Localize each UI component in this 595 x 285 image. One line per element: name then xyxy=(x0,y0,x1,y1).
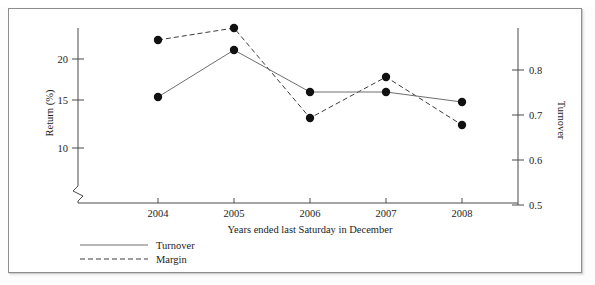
chart-canvas: 20 15 10 Return (%) 0.8 0.7 0.6 0.5 Turn… xyxy=(0,0,595,285)
chart-legend: Turnover Margin xyxy=(80,240,195,265)
legend-label-turnover: Turnover xyxy=(156,240,195,251)
x-axis-title: Years ended last Saturday in December xyxy=(228,224,393,235)
left-tick-label-20: 20 xyxy=(58,54,69,65)
point-turnover-2008 xyxy=(458,98,466,106)
left-tick-label-10: 10 xyxy=(58,143,69,154)
x-tick-label-2008: 2008 xyxy=(452,208,473,219)
series-margin-line xyxy=(158,28,462,125)
series-turnover xyxy=(154,46,466,106)
chart-page: 20 15 10 Return (%) 0.8 0.7 0.6 0.5 Turn… xyxy=(0,0,595,285)
left-axis-line xyxy=(73,28,83,203)
point-turnover-2007 xyxy=(382,88,390,96)
right-axis-title: Turnover xyxy=(556,101,567,140)
x-tick-label-2004: 2004 xyxy=(148,208,170,219)
point-turnover-2006 xyxy=(306,88,314,96)
legend-label-margin: Margin xyxy=(156,254,187,265)
x-axis: 2004 2005 2006 2007 2008 Years ended las… xyxy=(78,198,518,235)
x-tick-label-2007: 2007 xyxy=(376,208,397,219)
series-margin xyxy=(154,24,466,129)
right-tick-label-0-6: 0.6 xyxy=(529,155,542,166)
left-axis: 20 15 10 Return (%) xyxy=(44,28,84,203)
right-tick-label-0-5: 0.5 xyxy=(529,200,542,211)
x-tick-label-2006: 2006 xyxy=(300,208,321,219)
point-margin-2007 xyxy=(382,73,390,81)
left-tick-label-15: 15 xyxy=(58,95,69,106)
x-tick-label-2005: 2005 xyxy=(224,208,245,219)
point-margin-2006 xyxy=(306,114,314,122)
point-margin-2004 xyxy=(154,36,162,44)
point-margin-2005 xyxy=(230,24,238,32)
legend-item-margin[interactable]: Margin xyxy=(80,254,187,265)
point-turnover-2004 xyxy=(154,93,162,101)
right-tick-label-0-8: 0.8 xyxy=(529,65,542,76)
right-axis: 0.8 0.7 0.6 0.5 Turnover xyxy=(512,28,567,211)
point-margin-2008 xyxy=(458,121,466,129)
point-turnover-2005 xyxy=(230,46,238,54)
chart-svg: 20 15 10 Return (%) 0.8 0.7 0.6 0.5 Turn… xyxy=(0,0,595,285)
legend-item-turnover[interactable]: Turnover xyxy=(80,240,195,251)
left-axis-title: Return (%) xyxy=(44,89,56,136)
right-tick-label-0-7: 0.7 xyxy=(529,110,542,121)
